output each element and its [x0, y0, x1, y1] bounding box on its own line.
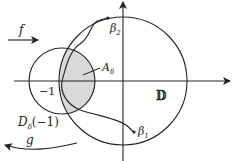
label-disk: 𝔻 [156, 89, 167, 103]
label-beta2: β2 [109, 22, 121, 37]
beta2-point [106, 16, 109, 19]
label-a-delta: Aδ [101, 61, 114, 76]
label-minus-one: −1 [39, 85, 55, 98]
g-arrow [5, 143, 77, 149]
label-d-delta: Dδ(−1) [17, 115, 59, 131]
label-f: f [18, 23, 26, 37]
beta1-point [132, 130, 135, 133]
label-g: g [26, 133, 34, 147]
diagram: f g −1 𝔻 Aδ β2 β1 Dδ(−1) [0, 0, 236, 161]
label-beta1: β1 [137, 125, 149, 140]
